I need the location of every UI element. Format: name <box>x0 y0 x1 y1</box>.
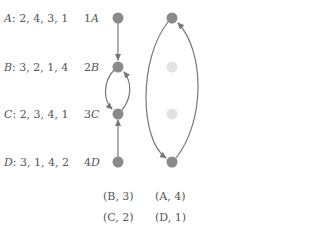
pair-B3: (B, 3) <box>103 190 134 203</box>
node-right-top <box>167 13 178 24</box>
node-right-faded-2 <box>167 109 178 120</box>
edge-3-to-2 <box>122 72 130 110</box>
node-right-bottom <box>167 157 178 168</box>
pair-C2: (C, 2) <box>103 211 134 224</box>
node-right-faded-1 <box>167 62 178 73</box>
node-3 <box>113 109 124 120</box>
edge-bottom-to-top <box>176 23 198 158</box>
pair-D1: (D, 1) <box>155 211 186 224</box>
node-2 <box>113 62 124 73</box>
node-1 <box>113 13 124 24</box>
edge-top-to-bottom <box>146 22 168 158</box>
pair-A4: (A, 4) <box>155 190 186 203</box>
edge-2-to-3 <box>105 70 114 109</box>
node-4 <box>113 157 124 168</box>
